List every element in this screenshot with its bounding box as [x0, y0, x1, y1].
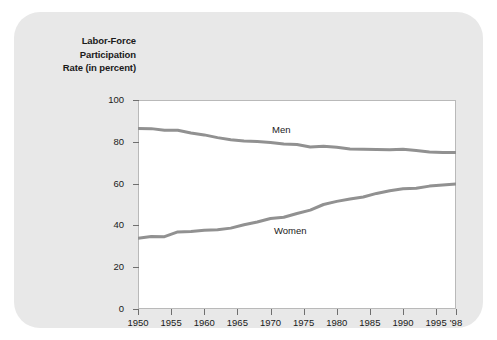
series-line-men: [138, 128, 456, 152]
x-tick-label: 1995: [426, 317, 447, 328]
y-tick-label: 100: [90, 94, 124, 105]
x-tick-label: 1970: [260, 317, 281, 328]
y-tick-mark: [133, 100, 139, 101]
chart-title-line-3: Rate (in percent): [22, 61, 136, 75]
y-tick-mark: [133, 184, 139, 185]
x-tick-mark: [271, 309, 272, 315]
x-tick-label: 1950: [127, 317, 148, 328]
x-tick-mark: [436, 309, 437, 315]
x-tick-label: '98: [450, 317, 462, 328]
x-tick-label: 1960: [194, 317, 215, 328]
chart-title-line-2: Participation: [22, 48, 136, 62]
x-tick-mark: [456, 309, 457, 315]
y-tick-mark: [133, 225, 139, 226]
x-tick-label: 1980: [326, 317, 347, 328]
series-label-women: Women: [274, 225, 307, 236]
chart-title-line-1: Labor-Force: [22, 34, 136, 48]
y-tick-label: 20: [90, 261, 124, 272]
plot-lines: [138, 100, 456, 309]
x-tick-label: 1985: [359, 317, 380, 328]
x-tick-mark: [237, 309, 238, 315]
x-tick-mark: [138, 309, 139, 315]
y-tick-label: 40: [90, 219, 124, 230]
x-tick-mark: [304, 309, 305, 315]
x-tick-label: 1955: [161, 317, 182, 328]
y-tick-label: 0: [90, 303, 124, 314]
x-tick-mark: [204, 309, 205, 315]
x-tick-mark: [370, 309, 371, 315]
x-tick-mark: [171, 309, 172, 315]
x-tick-label: 1975: [293, 317, 314, 328]
chart-title: Labor-Force Participation Rate (in perce…: [22, 34, 136, 75]
y-tick-mark: [133, 267, 139, 268]
x-tick-label: 1990: [392, 317, 413, 328]
series-label-men: Men: [272, 124, 290, 135]
figure-card: Labor-Force Participation Rate (in perce…: [14, 12, 483, 328]
y-tick-label: 80: [90, 136, 124, 147]
x-tick-mark: [337, 309, 338, 315]
x-tick-label: 1965: [227, 317, 248, 328]
y-tick-label: 60: [90, 178, 124, 189]
x-tick-mark: [403, 309, 404, 315]
y-tick-mark: [133, 142, 139, 143]
